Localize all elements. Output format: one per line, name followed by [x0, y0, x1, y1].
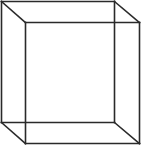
depth-edge [2, 2, 26, 23]
depth-edge [2, 123, 26, 144]
cube-diagram [0, 0, 142, 151]
depth-edge [115, 123, 140, 144]
depth-edge [115, 2, 140, 23]
necker-cube-icon [0, 0, 142, 151]
